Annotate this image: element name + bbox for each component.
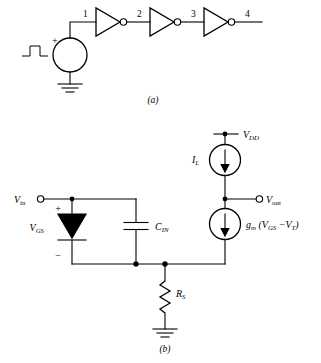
wire-source-to-node1: [70, 22, 96, 38]
inverter-3: [204, 8, 235, 36]
ground-icon-b: [153, 329, 177, 337]
pulse-icon: [22, 46, 48, 56]
vdd-label: VDD: [243, 129, 259, 141]
vgs-minus-sign: −: [55, 250, 61, 261]
vout-label: Vout: [266, 194, 281, 206]
caption-b: (b): [159, 344, 170, 355]
inverter-1: [96, 8, 127, 36]
node-label-1: 1: [83, 9, 88, 19]
diode-icon: [58, 214, 86, 240]
load-current-label: IL: [191, 154, 199, 166]
panel-a-inverter-chain: + 1 2 3 4 (a): [22, 8, 262, 106]
vout-terminal-icon[interactable]: [256, 196, 262, 202]
vin-terminal-icon[interactable]: [37, 196, 43, 202]
caption-a: (a): [147, 95, 158, 106]
cin-label: CIN: [155, 221, 169, 233]
node-label-3: 3: [191, 9, 196, 19]
current-source-load: [210, 145, 241, 176]
node-label-2: 2: [137, 9, 142, 19]
rs-label: RS: [175, 288, 186, 300]
pulse-voltage-source-icon: [53, 38, 87, 72]
current-source-gm: [210, 209, 241, 240]
vin-label: Vin: [14, 194, 26, 206]
source-polarity-plus: +: [52, 35, 58, 46]
ground-icon: [58, 84, 82, 92]
gm-expression: gm (VGS −VT): [246, 219, 299, 231]
vgs-label: VGS: [30, 222, 45, 234]
panel-b-equivalent-circuit: VDD IL Vout gm (VGS −VT) Vin: [14, 129, 299, 355]
vgs-plus-sign: +: [55, 203, 61, 214]
circuit-figure: + 1 2 3 4 (a) VDD: [0, 0, 321, 363]
capacitor-bottom-node-dot: [133, 261, 138, 266]
inverter-2: [150, 8, 181, 36]
node-label-4: 4: [245, 9, 250, 19]
resistor-zigzag-icon: [160, 281, 170, 313]
capacitor-icon: [124, 223, 148, 230]
